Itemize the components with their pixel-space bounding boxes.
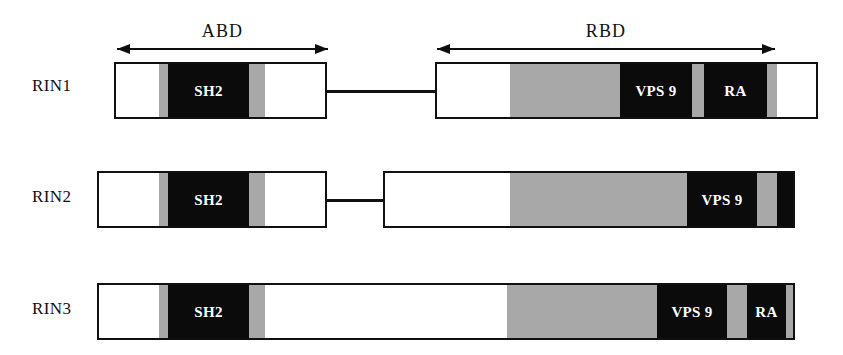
rin1-abd-bar: SH2: [114, 62, 327, 119]
domain-segment: [786, 283, 795, 340]
domain-segment: [265, 171, 327, 228]
domain-segment: [159, 283, 168, 340]
domain-segment: [727, 283, 747, 340]
domain-segment: [437, 62, 510, 119]
domain-segment-sh2: SH2: [168, 62, 249, 119]
domain-segment-ra: RA: [747, 283, 786, 340]
domain-segment-vps-9: VPS 9: [657, 283, 727, 340]
arrow-head-right-icon: [315, 44, 328, 54]
rin2-rbd-bar: VPS 9RA: [383, 171, 795, 228]
domain-segment: [99, 171, 159, 228]
span-arrow-label-abd: ABD: [117, 21, 328, 42]
domain-segment: [265, 62, 327, 119]
domain-segment: [159, 171, 168, 228]
domain-label: RA: [724, 83, 746, 100]
domain-label: VPS 9: [635, 83, 676, 100]
domain-segment: [777, 62, 818, 119]
domain-segment-sh2: SH2: [168, 283, 249, 340]
domain-segment: [767, 62, 777, 119]
domain-segment-ra: RA: [777, 171, 795, 228]
domain-label: VPS 9: [701, 192, 742, 209]
domain-segment: [510, 62, 620, 119]
domain-segment: [99, 283, 159, 340]
row-label-rin3: RIN3: [32, 299, 71, 319]
domain-segment: [159, 62, 168, 119]
domain-segment: [249, 283, 265, 340]
arrow-shaft: [437, 48, 775, 50]
domain-segment: [249, 171, 265, 228]
linker-rin2: [327, 199, 385, 202]
domain-segment: [510, 171, 687, 228]
protein-domain-figure: ABDRBDRIN1SH2VPS 9RARIN2SH2VPS 9RARIN3SH…: [0, 0, 843, 355]
domain-segment: [249, 62, 265, 119]
rin3-full-bar: SH2VPS 9RA: [97, 283, 795, 340]
domain-segment-vps-9: VPS 9: [687, 171, 757, 228]
arrow-shaft: [117, 48, 328, 50]
domain-segment: [385, 171, 510, 228]
domain-segment: [116, 62, 159, 119]
domain-label: SH2: [194, 192, 222, 209]
domain-segment: [757, 171, 777, 228]
rin2-abd-bar: SH2: [97, 171, 327, 228]
row-label-rin2: RIN2: [32, 187, 71, 207]
span-arrow-rbd: RBD: [437, 44, 775, 54]
domain-segment-sh2: SH2: [168, 171, 249, 228]
domain-segment: [265, 283, 507, 340]
rin1-rbd-bar: VPS 9RA: [435, 62, 818, 119]
arrow-head-left-icon: [437, 44, 450, 54]
arrow-head-right-icon: [762, 44, 775, 54]
domain-label: SH2: [194, 83, 222, 100]
span-arrow-abd: ABD: [117, 44, 328, 54]
domain-segment: [507, 283, 657, 340]
row-label-rin1: RIN1: [32, 76, 71, 96]
domain-label: VPS 9: [671, 304, 712, 321]
linker-rin1: [327, 90, 435, 93]
domain-segment: [692, 62, 704, 119]
domain-segment-ra: RA: [704, 62, 767, 119]
domain-label: SH2: [194, 304, 222, 321]
span-arrow-label-rbd: RBD: [437, 21, 775, 42]
domain-segment-vps-9: VPS 9: [620, 62, 692, 119]
arrow-head-left-icon: [117, 44, 130, 54]
domain-label: RA: [755, 304, 777, 321]
